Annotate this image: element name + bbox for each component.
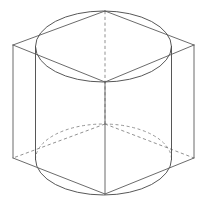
cylinder-in-cube-diagram: Cylinder inscribed in a cube Isometric w…	[0, 0, 208, 204]
figure-root: Cylinder inscribed in a cube Isometric w…	[0, 0, 208, 204]
diagram-background	[0, 0, 208, 204]
